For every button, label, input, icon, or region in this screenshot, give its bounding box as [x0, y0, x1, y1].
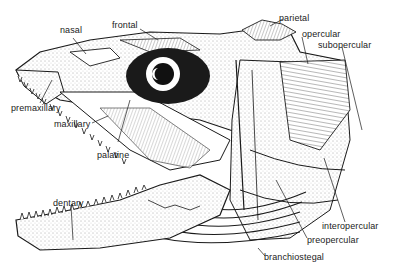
label-maxillary: maxillary — [54, 120, 90, 129]
label-subopercular: subopercular — [318, 41, 371, 50]
lower-jaw-dentary — [16, 175, 230, 250]
label-interopercular: interopercular — [322, 222, 378, 231]
label-preopercular: preopercular — [307, 236, 359, 245]
label-dentary: dentary — [53, 199, 84, 208]
label-frontal: frontal — [112, 21, 138, 30]
eye — [126, 48, 210, 104]
label-palatine: palatine — [97, 151, 129, 160]
fish-skull-diagram: nasal frontal parietal opercular suboper… — [0, 0, 393, 273]
label-nasal: nasal — [60, 26, 82, 35]
label-premaxillary: premaxillary — [11, 104, 61, 113]
label-opercular: opercular — [302, 30, 340, 39]
label-branchiostegal: branchiostegal — [264, 253, 324, 262]
opercular-series — [230, 60, 350, 240]
label-parietal: parietal — [279, 14, 309, 23]
